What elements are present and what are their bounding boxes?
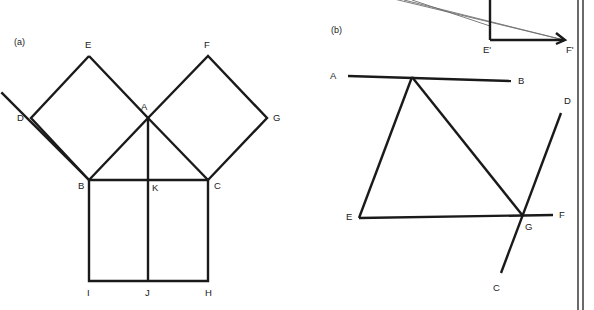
vertex-label-b-D: D <box>564 95 571 106</box>
vertex-label-a-B: B <box>78 180 84 191</box>
vertex-label-a-J: J <box>145 287 150 298</box>
vertex-label-a-F: F <box>204 39 210 50</box>
segment-apex-to-G <box>412 77 523 216</box>
segment-hypotenuse-C-A <box>148 118 208 180</box>
segment-square-left-B-D-E <box>31 56 89 180</box>
vertex-label-a-E: E <box>85 39 91 50</box>
segment-line-C-D <box>501 113 561 273</box>
vertex-label-a-C: C <box>214 180 221 191</box>
panel-b-group: (b) E' F' A B C D E F G <box>330 0 574 293</box>
vertex-label-a-H: H <box>205 287 212 298</box>
vertex-label-b-Fprime: F' <box>566 44 574 55</box>
panel-b-label: (b) <box>331 25 342 35</box>
segment-line-A-B <box>348 76 511 81</box>
vertex-label-a-D: D <box>17 112 24 123</box>
vertex-label-b-C: C <box>493 282 500 293</box>
vertex-label-b-E: E <box>346 211 352 222</box>
geometry-diagram: (a) A B C D E F G H I J K <box>0 0 594 310</box>
vertex-label-a-K: K <box>152 182 159 193</box>
vertex-label-a-G: G <box>273 112 280 123</box>
vertex-label-b-B: B <box>518 75 524 86</box>
vertex-label-b-F: F <box>559 209 565 220</box>
segment-square-left-E-A-B <box>89 56 148 180</box>
figure-canvas: (a) A B C D E F G H I J K <box>0 0 594 310</box>
panel-a-group: (a) A B C D E F G H I J K <box>1 37 280 298</box>
segment-apex-to-E <box>359 77 412 218</box>
vertex-label-a-A: A <box>141 101 148 112</box>
panel-a-label: (a) <box>14 37 25 47</box>
vertex-label-b-Eprime: E' <box>483 44 491 55</box>
vertex-label-a-I: I <box>87 287 90 298</box>
segment-square-right-A-F-G-C <box>148 56 267 180</box>
margin-rules-group <box>578 0 583 310</box>
vertex-label-b-A: A <box>330 70 337 81</box>
vertex-label-b-G: G <box>525 221 532 232</box>
segment-projection-ray-short <box>412 0 490 26</box>
segment-line-E-F <box>359 215 553 218</box>
segment-projection-ray-lower <box>390 0 564 40</box>
